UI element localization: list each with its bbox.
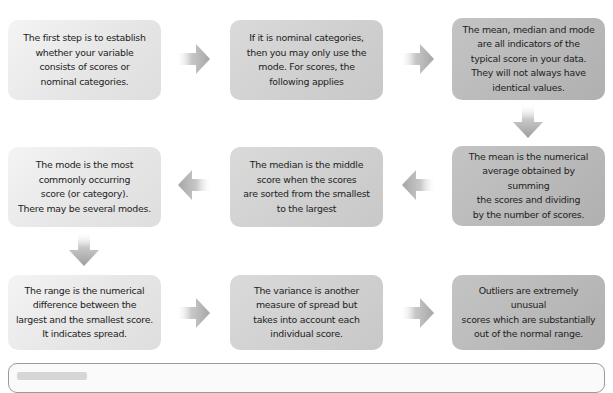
flow-box-text: Outliers are extremely unusual scores wh… xyxy=(460,284,597,342)
arrow-down-icon xyxy=(69,232,99,268)
flow-box-nominal-categories: If it is nominal categories, then you ma… xyxy=(230,20,383,100)
flow-box-central-tendency: The mean, median and mode are all indica… xyxy=(452,18,605,100)
bottom-panel xyxy=(8,363,605,393)
arrow-left-icon xyxy=(400,170,436,200)
flow-box-variance: The variance is another measure of sprea… xyxy=(230,275,383,350)
flow-box-text: If it is nominal categories, then you ma… xyxy=(247,31,366,89)
flow-box-range: The range is the numerical difference be… xyxy=(8,275,161,350)
flow-box-text: The range is the numerical difference be… xyxy=(16,284,153,342)
flow-box-median: The median is the middle score when the … xyxy=(230,147,383,227)
flow-box-first-step: The first step is to establish whether y… xyxy=(8,20,161,100)
flow-box-text: The variance is another measure of sprea… xyxy=(253,284,359,342)
flow-box-text: The mean, median and mode are all indica… xyxy=(462,23,594,96)
flow-box-text: The median is the middle score when the … xyxy=(243,158,369,216)
arrow-down-icon xyxy=(513,104,543,140)
flow-box-text: The mean is the numerical average obtain… xyxy=(460,150,597,223)
arrow-right-icon xyxy=(176,44,212,74)
panel-header-tab xyxy=(17,372,87,380)
flow-box-text: The first step is to establish whether y… xyxy=(23,31,145,89)
arrow-right-icon xyxy=(400,44,436,74)
arrow-left-icon xyxy=(176,170,212,200)
flow-box-mean: The mean is the numerical average obtain… xyxy=(452,146,605,226)
arrow-right-icon xyxy=(400,298,436,328)
flow-box-outliers: Outliers are extremely unusual scores wh… xyxy=(452,275,605,350)
flow-box-text: The mode is the most commonly occurring … xyxy=(18,158,151,216)
arrow-right-icon xyxy=(176,298,212,328)
flow-box-mode: The mode is the most commonly occurring … xyxy=(8,147,161,227)
